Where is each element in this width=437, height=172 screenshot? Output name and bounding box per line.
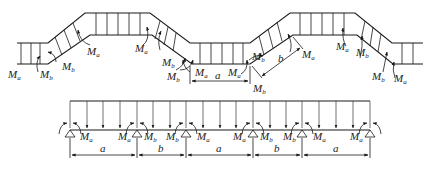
moment-label: Mb xyxy=(165,130,179,144)
moment-label: Ma xyxy=(7,68,21,82)
moment-label: Mb xyxy=(355,46,369,60)
support-triangle xyxy=(65,130,75,137)
moment-label: Ma xyxy=(79,130,93,144)
top-moment-labels: Ma Mb Mb Ma Ma Mb Mb Ma Ma Mb Mb Ma Ma M… xyxy=(7,40,407,96)
moment-label: Mb xyxy=(166,70,180,84)
diagram-canvas: Ma Mb Mb Ma Ma Mb Mb Ma Ma Mb Mb Ma Ma M… xyxy=(0,0,437,172)
support-triangle xyxy=(248,130,258,137)
moment-label: Mb xyxy=(161,56,175,70)
continuous-beam: Ma Ma Mb Mb Ma Ma Mb Mb Ma Ma a b a b a xyxy=(59,101,381,158)
moment-label: Ma xyxy=(312,130,326,144)
support-triangle xyxy=(181,130,191,137)
moment-label: Mb xyxy=(282,130,296,144)
moment-label: Mb xyxy=(39,68,53,82)
moment-label: Mb xyxy=(143,130,157,144)
span-label: a xyxy=(100,142,106,154)
support-triangle xyxy=(365,130,375,137)
distributed-load-arrows xyxy=(70,101,370,128)
moment-label: Ma xyxy=(301,48,315,62)
moment-label: Ma xyxy=(232,130,246,144)
moment-label: Mb xyxy=(61,60,75,74)
moment-label: Mb xyxy=(252,82,266,96)
moment-label: Mb xyxy=(259,130,273,144)
span-label: b xyxy=(158,142,164,154)
folded-structure: Ma Mb Mb Ma Ma Mb Mb Ma Ma Mb Mb Ma Ma M… xyxy=(7,13,423,96)
moment-label: Ma xyxy=(227,66,241,80)
supports xyxy=(65,130,375,137)
moment-label: Ma xyxy=(196,130,210,144)
span-label: a xyxy=(333,142,339,154)
support-triangle xyxy=(297,130,307,137)
moment-label: Ma xyxy=(393,72,407,86)
moment-label: Ma xyxy=(335,40,349,54)
moment-label: Mb xyxy=(371,70,385,84)
moment-label: Ma xyxy=(134,42,148,56)
moment-label: Ma xyxy=(194,66,208,80)
span-labels: a b a b a xyxy=(100,142,339,154)
moment-label: Ma xyxy=(349,130,363,144)
folded-rungs xyxy=(21,13,413,64)
support-triangle xyxy=(132,130,142,137)
span-label: a xyxy=(216,142,222,154)
dimension-label-a: a xyxy=(215,69,221,81)
moment-label: Ma xyxy=(86,45,100,59)
span-label: b xyxy=(274,142,280,154)
dimension-label-b: b xyxy=(278,52,284,64)
moment-label: Ma xyxy=(117,130,131,144)
